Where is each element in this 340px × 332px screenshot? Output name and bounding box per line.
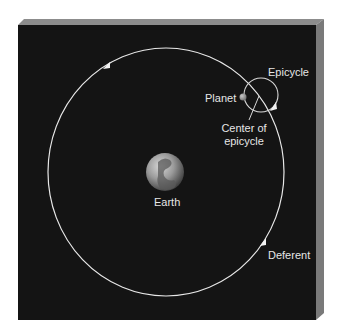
- epicycle-diagram: Epicycle Planet Center of epicycle Earth…: [0, 0, 340, 332]
- epicycle-label: Epicycle: [268, 66, 309, 78]
- deferent-label: Deferent: [268, 249, 310, 261]
- planet-label: Planet: [205, 92, 236, 104]
- panel-bevel-top: [18, 19, 324, 25]
- center-of-epicycle-label-line2: epicycle: [221, 135, 267, 147]
- diagram-canvas: [0, 0, 340, 332]
- panel-bevel-side: [316, 19, 324, 320]
- planet-dot: [240, 94, 247, 101]
- center-of-epicycle-label-line1: Center of: [221, 122, 267, 134]
- earth-label: Earth: [154, 196, 180, 208]
